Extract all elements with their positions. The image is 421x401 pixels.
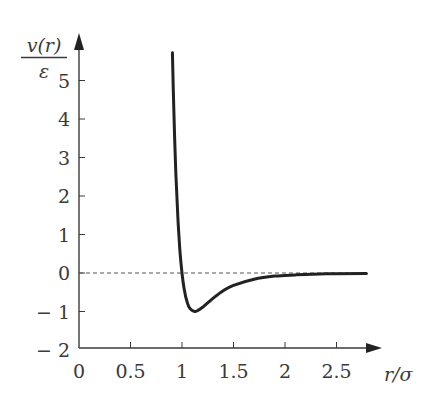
x-tick-label: 0: [73, 360, 85, 382]
y-tick-label: 4: [58, 108, 70, 130]
x-tick-label: 1: [176, 360, 188, 382]
y-axis-arrow-icon: [74, 33, 84, 50]
y-tick-label: − 1: [36, 301, 70, 323]
x-tick-label: 1.5: [218, 360, 248, 382]
chart: v(r) ε − 2− 1012345 00.511.522.5 r/σ: [0, 0, 421, 401]
x-axis-arrow-icon: [366, 343, 382, 353]
x-tick-label: 0.5: [115, 360, 145, 382]
y-ticks: − 2− 1012345: [36, 70, 85, 362]
y-tick-label: 0: [58, 262, 70, 284]
y-label-numerator: v(r): [27, 34, 62, 56]
y-tick-label: 2: [58, 185, 70, 207]
y-tick-label: 1: [58, 224, 70, 246]
y-tick-label: 3: [58, 147, 70, 169]
x-axis-label: r/σ: [384, 363, 413, 385]
axes: [74, 33, 382, 353]
x-tick-label: 2: [279, 360, 291, 382]
y-tick-label: − 2: [36, 339, 70, 361]
x-tick-label: 2.5: [321, 360, 351, 382]
y-label-denominator: ε: [39, 60, 49, 82]
y-tick-label: 5: [58, 70, 70, 92]
